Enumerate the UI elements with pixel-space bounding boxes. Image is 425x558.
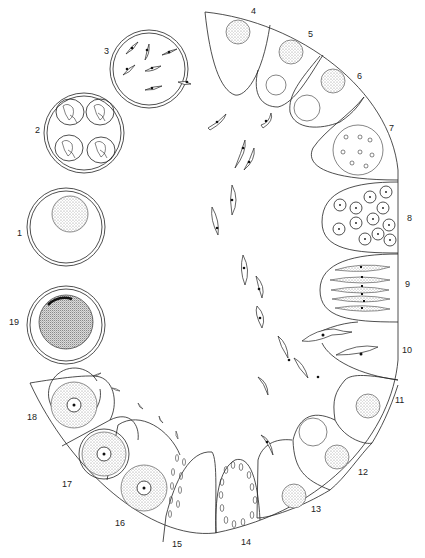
- label-stage-9: 9: [405, 280, 410, 289]
- segment-15: [163, 452, 216, 542]
- label-stage-10: 10: [402, 346, 412, 355]
- label-stage-16: 16: [115, 519, 125, 528]
- segment-10: [302, 322, 398, 380]
- segment-9: [320, 254, 398, 322]
- segment-14: [216, 459, 260, 533]
- segment-6: [290, 56, 364, 127]
- label-stage-3: 3: [104, 47, 109, 56]
- label-stage-15: 15: [172, 540, 182, 549]
- segment-18: [30, 368, 114, 428]
- stage-19-oocyst: [27, 286, 105, 364]
- label-stage-4: 4: [251, 7, 256, 16]
- stage-3-cyst: [110, 30, 191, 108]
- label-stage-18: 18: [27, 413, 37, 422]
- label-stage-1: 1: [17, 229, 22, 238]
- label-stage-11: 11: [395, 396, 404, 405]
- segment-8: [322, 182, 398, 253]
- label-stage-8: 8: [407, 214, 412, 223]
- segment-11: [334, 375, 398, 443]
- label-stage-13: 13: [311, 505, 321, 514]
- stage-1-oocyst: [27, 188, 105, 266]
- label-stage-14: 14: [241, 538, 251, 547]
- segment-12: [293, 415, 372, 490]
- label-stage-17: 17: [62, 480, 72, 489]
- label-stage-19: 19: [9, 318, 19, 327]
- label-stage-12: 12: [358, 468, 368, 477]
- free-zoites: [208, 113, 308, 455]
- label-stage-5: 5: [308, 30, 313, 39]
- label-stage-2: 2: [35, 126, 40, 135]
- stage-2-cyst: [44, 93, 124, 173]
- label-stage-6: 6: [357, 72, 362, 81]
- label-stage-7: 7: [389, 124, 394, 133]
